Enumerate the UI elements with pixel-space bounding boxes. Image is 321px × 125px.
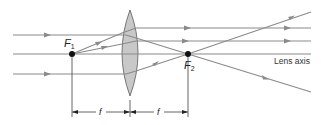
arrow-icon: [44, 33, 51, 38]
ray-f1-lower: [72, 41, 311, 54]
arrow-icon: [284, 26, 291, 31]
lens-diagram: F1 F2 Lens axis f f: [0, 0, 321, 125]
label-f2: F2: [184, 59, 195, 72]
converging-lens: [122, 10, 138, 96]
dimension-arrow-icon: [182, 110, 188, 114]
arrow-icon: [284, 39, 291, 44]
focal-point-f2: [185, 51, 191, 57]
dimension-arrow-icon: [72, 110, 78, 114]
ray-bottom-incoming: [13, 12, 311, 74]
ray-top-incoming: [13, 35, 311, 92]
arrow-icon: [101, 46, 108, 50]
arrow-icon: [95, 42, 102, 47]
dimension-arrow-icon: [124, 110, 130, 114]
dimension-arrow-icon: [130, 110, 136, 114]
focal-length-label-right: f: [157, 107, 161, 117]
focal-point-f1: [69, 51, 75, 57]
lens-axis-label: Lens axis: [274, 56, 310, 66]
focal-length-label-left: f: [99, 107, 103, 117]
arrow-icon: [184, 26, 191, 31]
arrow-icon: [44, 72, 51, 77]
arrow-icon: [182, 39, 189, 44]
label-f1: F1: [64, 37, 75, 50]
